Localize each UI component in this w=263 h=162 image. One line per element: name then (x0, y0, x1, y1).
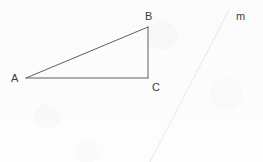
geometry-figure-canvas: A B C m (0, 0, 263, 162)
line-m-stroke (150, 10, 229, 162)
triangle-edge-ab (26, 27, 148, 78)
vertex-label-a: A (11, 73, 19, 84)
vertex-label-b: B (145, 11, 153, 22)
line-label-m: m (236, 11, 245, 22)
figure-vector-layer (0, 0, 263, 162)
vertex-label-c: C (152, 82, 160, 93)
